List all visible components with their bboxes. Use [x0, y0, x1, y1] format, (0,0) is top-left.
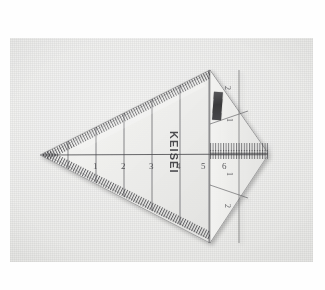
scale-number-3: 3: [149, 161, 154, 171]
upper-scale-number-2: 2: [223, 86, 232, 90]
dark-sticker-marker: [212, 92, 223, 121]
scale-number-4: 4: [176, 161, 181, 171]
lower-scale-number-2: 2: [223, 204, 232, 208]
scale-number-1: 1: [93, 161, 98, 171]
photograph-page: KEISEI 1 2 3 4 5 6 2 1 1 2: [0, 0, 325, 290]
scale-number-2: 2: [121, 161, 126, 171]
photo-area: KEISEI 1 2 3 4 5 6 2 1 1 2: [10, 38, 313, 262]
upper-scale-number-1: 1: [225, 118, 234, 122]
scale-number-6: 6: [222, 161, 227, 171]
ruler-body-group: [40, 65, 278, 248]
ruler-drawing: [10, 38, 313, 262]
lower-scale-number-1: 1: [225, 172, 234, 176]
scale-number-5: 5: [201, 161, 206, 171]
